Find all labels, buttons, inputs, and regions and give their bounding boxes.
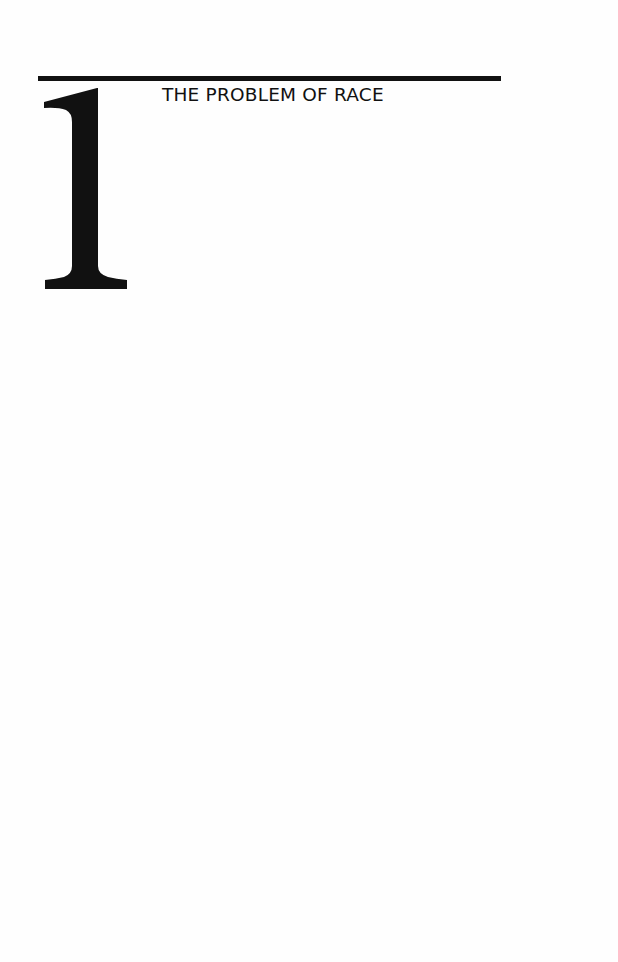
book-page: THE PROBLEM OF RACE	[0, 0, 618, 962]
chapter-heading-rule	[38, 76, 501, 81]
chapter-numeral-glyph	[44, 88, 128, 290]
chapter-title: THE PROBLEM OF RACE	[162, 84, 384, 106]
chapter-number	[44, 88, 128, 290]
